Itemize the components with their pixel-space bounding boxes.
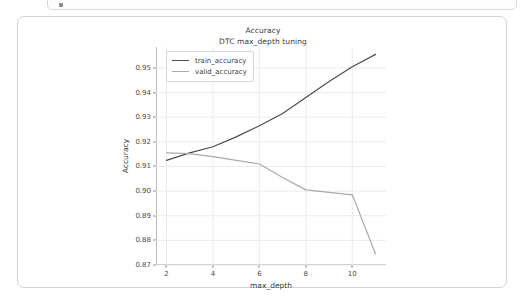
x-tick-mark bbox=[352, 265, 353, 268]
chart-subtitle: DTC max_depth tuning bbox=[18, 36, 508, 47]
y-tick-label: 0.90 bbox=[135, 187, 151, 195]
legend-item-train: train_accuracy bbox=[172, 55, 247, 66]
chart-legend: train_accuracy valid_accuracy bbox=[166, 51, 254, 82]
x-tick-label: 10 bbox=[348, 270, 357, 278]
y-tick-mark bbox=[153, 117, 156, 118]
y-tick-label: 0.93 bbox=[135, 113, 151, 121]
matplotlib-figure: Accuracy DTC max_depth tuning 0.870.880.… bbox=[18, 17, 508, 289]
legend-swatch-valid bbox=[172, 71, 189, 72]
chart-title: Accuracy bbox=[18, 25, 508, 36]
x-tick-mark bbox=[259, 265, 260, 268]
legend-label-valid: valid_accuracy bbox=[195, 68, 247, 76]
y-tick-label: 0.88 bbox=[135, 236, 151, 244]
x-tick-label: 6 bbox=[257, 270, 261, 278]
x-tick-label: 4 bbox=[211, 270, 215, 278]
y-tick-mark bbox=[153, 166, 156, 167]
y-tick-label: 0.95 bbox=[135, 64, 151, 72]
x-tick-label: 8 bbox=[304, 270, 308, 278]
y-tick-mark bbox=[153, 240, 156, 241]
legend-label-train: train_accuracy bbox=[195, 57, 246, 65]
legend-swatch-train bbox=[172, 60, 189, 61]
x-tick-mark bbox=[212, 265, 213, 268]
x-tick-mark bbox=[305, 265, 306, 268]
cell-indicator-dot bbox=[59, 3, 63, 7]
y-tick-mark bbox=[153, 92, 156, 93]
y-tick-mark bbox=[153, 265, 156, 266]
figure-output-card: Accuracy DTC max_depth tuning 0.870.880.… bbox=[17, 16, 507, 288]
figure-title-block: Accuracy DTC max_depth tuning bbox=[18, 25, 508, 47]
y-tick-label: 0.92 bbox=[135, 138, 151, 146]
y-tick-mark bbox=[153, 191, 156, 192]
y-tick-mark bbox=[153, 215, 156, 216]
x-axis-label: max_depth bbox=[250, 281, 292, 290]
y-tick-mark bbox=[153, 67, 156, 68]
y-tick-label: 0.94 bbox=[135, 89, 151, 97]
legend-item-valid: valid_accuracy bbox=[172, 66, 247, 77]
y-tick-label: 0.89 bbox=[135, 212, 151, 220]
y-tick-mark bbox=[153, 141, 156, 142]
x-tick-mark bbox=[166, 265, 167, 268]
y-tick-label: 0.87 bbox=[135, 261, 151, 269]
y-axis-label: Accuracy bbox=[121, 139, 130, 173]
y-tick-label: 0.91 bbox=[135, 162, 151, 170]
x-tick-label: 2 bbox=[164, 270, 168, 278]
notebook-cell-strip[interactable] bbox=[47, 0, 517, 10]
chart-axes: 0.870.880.890.900.910.920.930.940.95 246… bbox=[156, 47, 386, 265]
